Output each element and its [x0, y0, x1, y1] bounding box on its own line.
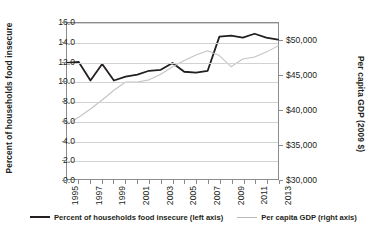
gridline	[67, 82, 278, 83]
legend-line-swatch	[30, 216, 50, 218]
y-axis-right-tick-label: $30,000	[286, 175, 338, 185]
x-axis-tick-label: 2013	[283, 186, 293, 205]
x-axis-tick-mark	[220, 180, 221, 184]
y-axis-left-tick-label: 12.0	[29, 57, 75, 67]
chart-legend: Percent of households food insecure (lef…	[30, 209, 350, 225]
x-axis-tick-mark	[149, 180, 150, 184]
y-axis-left-tick-mark	[62, 42, 66, 43]
x-axis-tick-mark	[78, 180, 79, 184]
x-axis-tick-mark	[279, 180, 280, 184]
y-axis-left-tick-label: 8.0	[29, 96, 75, 106]
y-axis-right-title: Per capita GDP (2009 $)	[353, 6, 369, 202]
gridline	[67, 63, 278, 64]
x-axis-tick-label: 2009	[236, 186, 246, 205]
plot-area	[66, 22, 279, 180]
x-axis-tick-mark	[102, 180, 103, 184]
y-axis-left-tick-label: 14.0	[29, 37, 75, 47]
x-axis-tick-mark	[196, 180, 197, 184]
x-axis-tick-mark	[137, 180, 138, 184]
x-axis-tick-label: 2003	[165, 186, 175, 205]
y-axis-left-tick-mark	[62, 160, 66, 161]
y-axis-right-tick-mark	[279, 145, 283, 146]
y-axis-right-tick-label: $35,000	[286, 140, 338, 150]
y-axis-left-tick-label: 4.0	[29, 136, 75, 146]
x-axis-tick-mark	[125, 180, 126, 184]
legend-label: Percent of households food insecure (lef…	[54, 213, 223, 222]
series-line	[67, 46, 278, 124]
x-axis-tick-mark	[161, 180, 162, 184]
x-axis-tick-mark	[255, 180, 256, 184]
series-layer	[67, 23, 278, 179]
x-axis-tick-label: 2007	[212, 186, 222, 205]
legend-label: Per capita GDP (right axis)	[261, 213, 357, 222]
x-axis-tick-mark	[232, 180, 233, 184]
y-axis-right-tick-mark	[279, 75, 283, 76]
y-axis-left-tick-mark	[62, 62, 66, 63]
legend-line-swatch	[237, 217, 257, 218]
y-axis-right-tick-label: $45,000	[286, 70, 338, 80]
y-axis-left-tick-label: 6.0	[29, 116, 75, 126]
x-axis-tick-mark	[244, 180, 245, 184]
x-axis-tick-mark	[90, 180, 91, 184]
y-axis-left-tick-mark	[62, 81, 66, 82]
x-axis-tick-label: 1997	[94, 186, 104, 205]
y-axis-left-tick-mark	[62, 141, 66, 142]
y-axis-right-title-text: Per capita GDP (2009 $)	[356, 56, 366, 152]
series-line	[67, 34, 278, 81]
x-axis-tick-mark	[113, 180, 114, 184]
y-axis-right-tick-label: $40,000	[286, 105, 338, 115]
x-axis-tick-label: 2001	[141, 186, 151, 205]
gridline	[67, 43, 278, 44]
x-axis-tick-mark	[66, 180, 67, 184]
chart-figure: Percent of households food insecure Per …	[0, 0, 369, 234]
x-axis-tick-label: 2011	[259, 186, 269, 204]
y-axis-left-tick-mark	[62, 22, 66, 23]
x-axis-tick-mark	[208, 180, 209, 184]
y-axis-right-tick-label: $50,000	[286, 35, 338, 45]
gridline	[67, 102, 278, 103]
x-axis-tick-label: 2005	[188, 186, 198, 205]
legend-entry: Percent of households food insecure (lef…	[30, 213, 223, 222]
x-axis-tick-mark	[267, 180, 268, 184]
y-axis-right-tick-mark	[279, 110, 283, 111]
y-axis-left-title: Percent of households food insecure	[0, 0, 16, 196]
x-axis-tick-label: 1999	[117, 186, 127, 205]
y-axis-left-tick-label: 10.0	[29, 76, 75, 86]
gridline	[67, 161, 278, 162]
y-axis-right-tick-mark	[279, 40, 283, 41]
x-axis-tick-label: 1995	[70, 186, 80, 205]
y-axis-left-tick-mark	[62, 121, 66, 122]
y-axis-left-tick-label: 0.0	[29, 175, 75, 185]
gridline	[67, 122, 278, 123]
x-axis-tick-mark	[173, 180, 174, 184]
y-axis-left-tick-mark	[62, 101, 66, 102]
x-axis-tick-mark	[184, 180, 185, 184]
gridline	[67, 142, 278, 143]
legend-entry: Per capita GDP (right axis)	[237, 213, 357, 222]
y-axis-left-tick-label: 2.0	[29, 155, 75, 165]
y-axis-left-title-text: Percent of households food insecure	[3, 22, 13, 173]
y-axis-left-tick-label: 16.0	[29, 17, 75, 27]
gridline	[67, 23, 278, 24]
